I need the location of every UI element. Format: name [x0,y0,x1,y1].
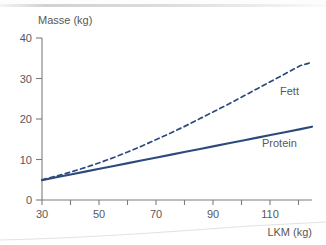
x-tick-label-70: 70 [150,208,162,220]
x-tick-label-50: 50 [93,208,105,220]
x-axis-title: LKM (kg) [267,226,312,238]
y-tick-label-0: 0 [26,194,32,206]
y-tick-label-10: 10 [20,154,32,166]
x-tick-label-30: 30 [36,208,48,220]
series-label-protein: Protein [262,137,297,149]
y-tick-label-30: 30 [20,73,32,85]
x-axis-ticks [42,200,299,205]
chart-figure: 40 30 20 10 0 30 50 70 90 110 Masse (kg)… [0,0,326,245]
y-axis-ticks [36,38,42,200]
x-tick-label-110: 110 [261,208,279,220]
y-tick-label-40: 40 [20,32,32,44]
y-axis-title: Masse (kg) [38,14,92,26]
y-tick-label-20: 20 [20,113,32,125]
line-chart: 40 30 20 10 0 30 50 70 90 110 Masse (kg)… [0,0,326,245]
series-line-fett [42,62,312,179]
page-edge-shadow [0,4,326,7]
series-line-protein [42,127,312,180]
x-tick-label-90: 90 [207,208,219,220]
series-label-fett: Fett [280,85,299,97]
